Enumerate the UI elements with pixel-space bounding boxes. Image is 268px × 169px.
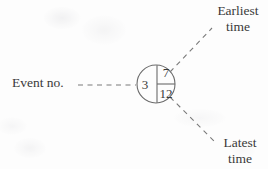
latest-time-value: 12 — [157, 87, 175, 100]
event-no-label: Event no. — [12, 76, 64, 91]
earliest-time-label: Earliest time — [209, 4, 267, 34]
earliest-time-label-line-1: Earliest — [209, 4, 267, 19]
latest-time-leader-line — [170, 97, 214, 141]
latest-time-label-line-2: time — [213, 152, 267, 167]
latest-time-label-line-1: Latest — [213, 136, 267, 151]
latest-time-label: Latest time — [213, 136, 267, 166]
event-number-value: 3 — [138, 78, 152, 91]
earliest-time-label-line-2: time — [209, 20, 267, 35]
event-node-diagram: 3 7 12 Event no. Earliest time Latest ti… — [0, 0, 268, 169]
earliest-time-value: 7 — [159, 66, 173, 79]
earliest-time-leader-line — [170, 28, 212, 72]
